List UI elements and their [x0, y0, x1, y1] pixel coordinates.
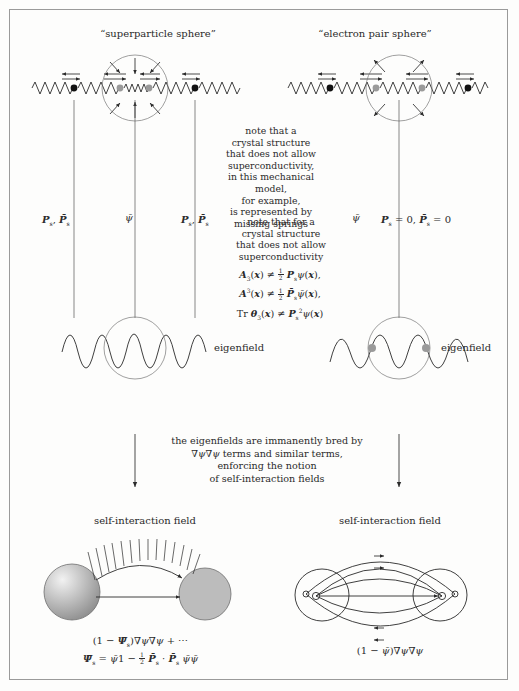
- left-big-sphere: [44, 564, 100, 620]
- equation-right-1: (1 − ψ̄)∇ψ∇ψ: [300, 645, 480, 657]
- left-curved-field-arrow: [96, 565, 182, 580]
- right-fig-loop-4: [306, 562, 455, 594]
- equation-left-2: Ψ̄s = ψ̄1 − 12 P̄s · P̄s ψ̄ψ̄: [38, 652, 243, 670]
- right-fig-loop-5: [306, 594, 455, 626]
- self-interaction-right-figure: [295, 556, 467, 640]
- self-interaction-left-figure: [44, 539, 231, 620]
- right-fig-loop-3: [316, 596, 442, 613]
- bottom-diagram-svg: [0, 0, 519, 691]
- left-field-bristles: [88, 539, 200, 580]
- figure-page: “superparticle sphere” “electron pair sp…: [0, 0, 519, 691]
- bottom-left-equations: (1 − Ψ̄s)∇ψ∇ψ + ⋯ Ψ̄s = ψ̄1 − 12 P̄s · P…: [38, 634, 243, 670]
- right-big-sphere: [179, 568, 231, 620]
- equation-left-1: (1 − Ψ̄s)∇ψ∇ψ + ⋯: [38, 634, 243, 652]
- bottom-right-equation: (1 − ψ̄)∇ψ∇ψ: [300, 645, 480, 657]
